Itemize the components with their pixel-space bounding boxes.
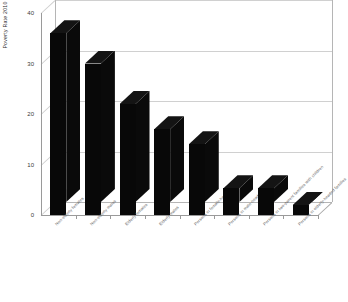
- bar-side-face: [66, 20, 80, 202]
- bar-1: [85, 64, 101, 216]
- x-tick-0: [76, 215, 77, 219]
- bar-6: [258, 188, 274, 215]
- x-tick-5: [249, 215, 250, 219]
- bar-0: [50, 33, 66, 215]
- x-tick-6: [283, 215, 284, 219]
- bar-3: [154, 129, 170, 215]
- poverty-rate-bar-chart: Poverty Rate 2010 010203040Non-elderly f…: [0, 0, 348, 302]
- bar-2: [120, 104, 136, 215]
- bar-side-face: [101, 51, 115, 203]
- y-axis-line: [41, 13, 42, 215]
- y-tick-label-30: 30: [18, 61, 34, 67]
- x-tick-3: [180, 215, 181, 219]
- gridline-back-40: [55, 0, 332, 1]
- gridline-back-30: [55, 51, 332, 52]
- x-tick-1: [110, 215, 111, 219]
- y-tick-label-0: 0: [18, 212, 34, 218]
- x-tick-4: [214, 215, 215, 219]
- y-tick-label-10: 10: [18, 162, 34, 168]
- bar-4: [189, 144, 205, 215]
- x-tick-7: [318, 215, 319, 219]
- bar-side-face: [136, 91, 150, 202]
- bar-side-face: [170, 116, 184, 202]
- plot-right-edge: [332, 0, 333, 202]
- y-tick-label-40: 40: [18, 10, 34, 16]
- plot-area: 010203040Non-elderly femalesNon-elderly …: [0, 0, 348, 302]
- bar-5: [223, 188, 239, 215]
- y-tick-label-20: 20: [18, 111, 34, 117]
- x-tick-2: [145, 215, 146, 219]
- gridline-connector-40: [41, 0, 56, 14]
